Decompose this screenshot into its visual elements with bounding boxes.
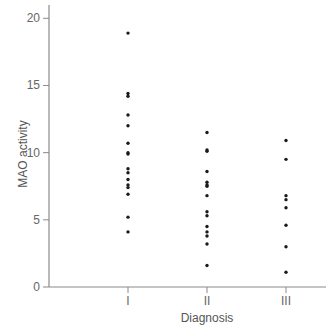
data-point [126,215,129,218]
data-point [205,230,208,233]
data-point [205,264,208,267]
data-point [126,193,129,196]
data-point [205,150,208,153]
x-axis-label: Diagnosis [181,311,234,325]
data-point [284,194,287,197]
data-point [205,214,208,217]
y-tick-label: 15 [27,78,41,92]
data-point [205,234,208,237]
y-tick-label: 5 [33,213,40,227]
data-point [126,230,129,233]
x-tick-label: II [204,294,211,308]
data-points [126,31,287,274]
data-point [284,139,287,142]
data-point [205,194,208,197]
data-point [126,152,129,155]
data-point [205,185,208,188]
x-tick-label: III [281,294,291,308]
data-point [205,210,208,213]
data-point [205,242,208,245]
data-point [126,31,129,34]
scatter-chart: 05101520IIIIII MAO activity Diagnosis [0,0,326,331]
data-point [205,170,208,173]
data-point [126,178,129,181]
data-point [205,131,208,134]
data-point [126,171,129,174]
data-point [284,271,287,274]
data-point [126,167,129,170]
data-point [205,225,208,228]
data-point [126,186,129,189]
data-point [126,95,129,98]
data-point [284,223,287,226]
data-point [284,198,287,201]
data-point [126,124,129,127]
y-tick-label: 20 [27,11,41,25]
data-point [284,158,287,161]
x-tick-label: I [126,294,129,308]
axes: 05101520IIIIII [27,5,326,308]
y-tick-label: 0 [33,280,40,294]
data-point [284,206,287,209]
data-point [284,245,287,248]
data-point [126,142,129,145]
data-point [126,113,129,116]
y-axis-label: MAO activity [16,120,30,187]
